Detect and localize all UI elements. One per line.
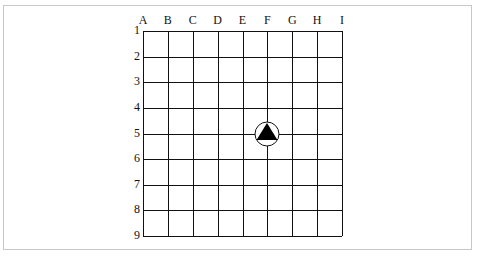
- row-label: 7: [132, 178, 140, 190]
- column-label: I: [334, 14, 350, 26]
- row-label: 3: [132, 75, 140, 87]
- column-label: B: [160, 14, 176, 26]
- column-label: C: [185, 14, 201, 26]
- column-label: G: [284, 14, 300, 26]
- column-label: F: [259, 14, 275, 26]
- triangle-in-circle-icon: [252, 119, 282, 149]
- row-label: 8: [132, 203, 140, 215]
- row-label: 9: [132, 229, 140, 241]
- row-label: 2: [132, 50, 140, 62]
- row-label: 5: [132, 127, 140, 139]
- row-label: 6: [132, 152, 140, 164]
- column-label: E: [235, 14, 251, 26]
- row-label: 4: [132, 101, 140, 113]
- column-label: H: [309, 14, 325, 26]
- grid: [143, 31, 342, 236]
- row-label: 1: [132, 24, 140, 36]
- column-label: D: [210, 14, 226, 26]
